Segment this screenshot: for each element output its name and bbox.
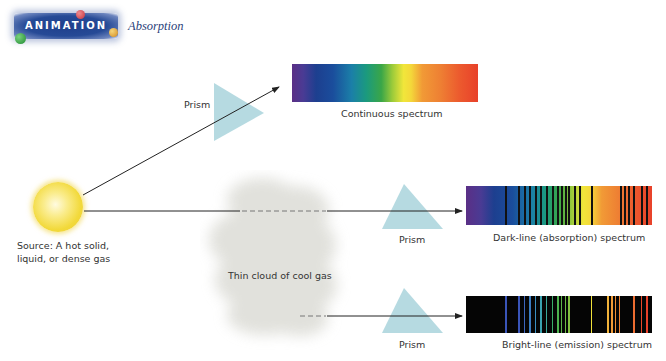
absorption-line: [565, 186, 567, 225]
emission-line: [552, 296, 554, 333]
emission-line: [561, 296, 563, 333]
emission-line: [646, 296, 648, 333]
absorption-line: [568, 186, 570, 225]
emission-line: [524, 296, 526, 333]
absorption-line: [579, 186, 581, 225]
emission-spectrum: [466, 296, 652, 333]
emission-line: [607, 296, 609, 333]
absorption-line: [574, 186, 576, 225]
absorption-line: [546, 186, 548, 225]
absorption-line: [633, 186, 635, 225]
absorption-line: [557, 186, 559, 225]
prism-label-bottom: Prism: [399, 339, 425, 350]
emission-line: [641, 296, 643, 333]
emission-line: [540, 296, 542, 333]
emission-line: [568, 296, 570, 333]
absorption-spectrum: [466, 186, 652, 225]
absorption-line: [628, 186, 630, 225]
absorption-line: [591, 186, 593, 225]
emission-line: [565, 296, 567, 333]
emission-line: [615, 296, 617, 333]
emission-line: [591, 296, 593, 333]
absorption-line: [518, 186, 520, 225]
absorption-line: [624, 186, 626, 225]
emission-line: [611, 296, 613, 333]
absorption-line: [535, 186, 537, 225]
emission-line: [518, 296, 520, 333]
absorption-line: [552, 186, 554, 225]
emission-line: [505, 296, 507, 333]
continuous-spectrum-label: Continuous spectrum: [341, 108, 443, 119]
absorption-line: [561, 186, 563, 225]
emission-spectrum-label: Bright-line (emission) spectrum: [502, 339, 652, 350]
absorption-line: [620, 186, 622, 225]
emission-line: [535, 296, 537, 333]
absorption-line: [641, 186, 643, 225]
prism-label-top: Prism: [184, 99, 210, 110]
absorption-spectrum-label: Dark-line (absorption) spectrum: [493, 232, 645, 243]
absorption-line: [646, 186, 648, 225]
emission-line: [546, 296, 548, 333]
absorption-line: [524, 186, 526, 225]
emission-line: [619, 296, 621, 333]
absorption-line: [505, 186, 507, 225]
continuous-spectrum: [292, 64, 478, 102]
absorption-line: [529, 186, 531, 225]
emission-line: [633, 296, 635, 333]
absorption-line: [540, 186, 542, 225]
emission-line: [529, 296, 531, 333]
prism-label-middle: Prism: [399, 234, 425, 245]
emission-line: [557, 296, 559, 333]
